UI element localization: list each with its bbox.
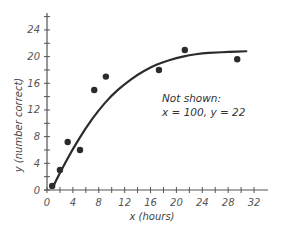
y-tick-label: 12 [27, 104, 40, 115]
data-point [234, 56, 240, 62]
x-tick-label: 28 [222, 197, 235, 208]
data-point [65, 139, 71, 145]
x-tick-label: 0 [44, 197, 50, 208]
data-point [77, 147, 83, 153]
fitted-curve [53, 51, 246, 186]
x-axis-label: x (hours) [128, 211, 174, 222]
x-tick-label: 20 [170, 197, 183, 208]
x-tick-label: 24 [196, 197, 209, 208]
fitted-curve-path [53, 51, 246, 186]
x-tick-label: 4 [70, 197, 76, 208]
y-tick-label: 16 [27, 78, 40, 89]
annotation-line-1: Not shown: [162, 92, 221, 104]
data-point [49, 183, 55, 189]
x-tick-label: 32 [248, 197, 261, 208]
data-point [91, 87, 97, 93]
y-axis-label: y (number correct) [13, 78, 24, 174]
data-point [103, 73, 109, 79]
y-tick-label: 8 [34, 131, 40, 142]
y-tick-label: 20 [27, 51, 40, 62]
y-tick-label: 24 [27, 24, 40, 35]
data-point [156, 67, 162, 73]
scatter-chart: 04812162024048121620242832 x (hours) y (… [0, 0, 281, 238]
x-tick-label: 8 [96, 197, 102, 208]
y-tick-label: 4 [34, 158, 40, 169]
x-tick-label: 12 [118, 197, 131, 208]
x-tick-label: 16 [144, 197, 157, 208]
y-tick-label: 0 [34, 185, 40, 196]
annotation-line-2: x = 100, y = 22 [161, 106, 246, 118]
data-point [57, 167, 63, 173]
data-point [182, 47, 188, 53]
